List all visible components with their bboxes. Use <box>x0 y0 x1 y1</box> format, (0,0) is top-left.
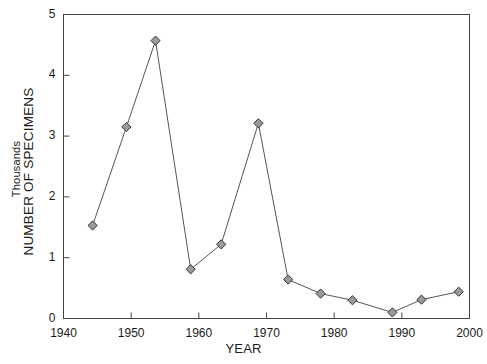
data-point-marker <box>151 36 160 45</box>
x-tick-label: 1940 <box>34 326 94 340</box>
data-point-marker <box>316 289 325 298</box>
data-point-marker <box>348 296 357 305</box>
plot-area <box>0 0 487 364</box>
data-line <box>93 41 459 313</box>
x-tick-label: 1960 <box>169 326 229 340</box>
data-point-marker <box>417 295 426 304</box>
chart-container: NUMBER OF SPECIMENS Thousands YEAR 01234… <box>0 0 487 364</box>
data-point-marker <box>122 122 131 131</box>
data-point-marker <box>254 119 263 128</box>
x-tick-label: 1990 <box>372 326 432 340</box>
y-tick-label: 5 <box>16 7 56 21</box>
y-tick-label: 3 <box>16 128 56 142</box>
x-tick-label: 1950 <box>101 326 161 340</box>
data-point-marker <box>388 308 397 317</box>
y-tick-label: 0 <box>16 311 56 325</box>
x-tick-label: 2000 <box>440 326 487 340</box>
y-tick-label: 4 <box>16 67 56 81</box>
y-tick-label: 1 <box>16 250 56 264</box>
data-point-marker <box>88 221 97 230</box>
x-tick-label: 1980 <box>304 326 364 340</box>
data-point-marker <box>454 287 463 296</box>
x-tick-label: 1970 <box>237 326 297 340</box>
y-tick-label: 2 <box>16 189 56 203</box>
data-markers <box>88 36 463 317</box>
data-point-marker <box>284 275 293 284</box>
